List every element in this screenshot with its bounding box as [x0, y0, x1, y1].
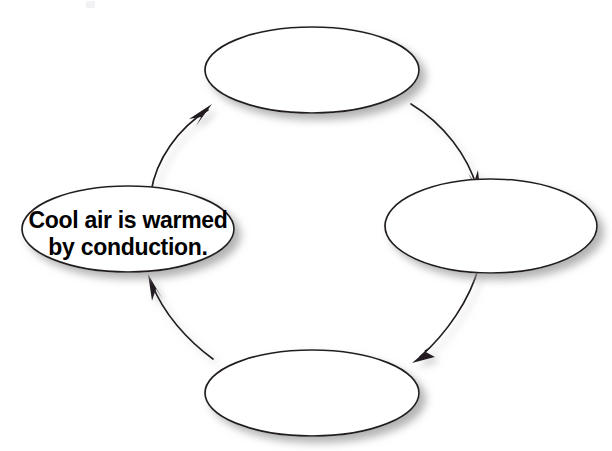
node-right[interactable]	[385, 179, 597, 273]
node-bottom[interactable]	[205, 350, 419, 436]
arrowhead-bottom-to-left	[148, 274, 162, 301]
cycle-diagram: Cool air is warmed by conduction.	[0, 0, 612, 451]
arrowhead-right-to-bottom	[412, 345, 435, 363]
connector-left-to-top-path	[151, 110, 208, 192]
node-left-label-line-1: Cool air is warmed	[28, 207, 227, 233]
node-bottom-shape[interactable]	[205, 350, 419, 436]
cycle-diagram-canvas: Cool air is warmed by conduction.	[0, 0, 612, 451]
node-right-shape[interactable]	[385, 179, 597, 273]
connector-bottom-to-left	[148, 274, 213, 359]
connector-bottom-to-left-path	[152, 284, 213, 359]
node-left[interactable]: Cool air is warmed by conduction.	[22, 186, 234, 272]
connector-right-to-bottom-path	[420, 266, 479, 357]
connector-left-to-top	[151, 104, 212, 192]
connector-top-to-right-path	[411, 104, 477, 188]
node-left-label-line-2: by conduction.	[48, 234, 207, 260]
arrowhead-left-to-top	[189, 104, 212, 126]
node-top-shape[interactable]	[205, 27, 419, 113]
node-top[interactable]	[205, 27, 419, 113]
connector-right-to-bottom	[412, 266, 479, 363]
